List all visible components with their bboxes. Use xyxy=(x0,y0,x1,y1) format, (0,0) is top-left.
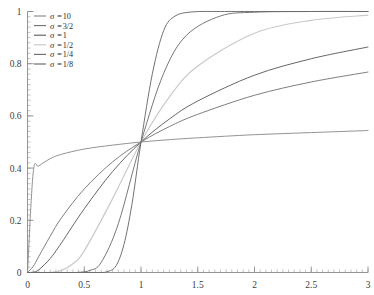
legend-label-1: σ =1 xyxy=(50,30,67,40)
x-tick-label: 2 xyxy=(252,280,257,290)
data-curves xyxy=(28,11,369,272)
minor-tick-marks xyxy=(28,12,369,273)
y-tick-label: 1 xyxy=(17,7,22,17)
curve-sigma-1-2 xyxy=(28,15,369,272)
curve-sigma-10 xyxy=(28,131,369,273)
x-tick-label: 1.5 xyxy=(192,280,204,290)
legend-label-1-2: σ =1/2 xyxy=(50,40,73,50)
chart-legend: σ =10σ =3/2σ =1σ =1/2σ =1/4σ =1/8 xyxy=(34,11,73,69)
x-tick-label: 1 xyxy=(139,280,144,290)
curve-sigma-3-2 xyxy=(28,72,369,272)
legend-label-1-4: σ =1/4 xyxy=(50,49,73,59)
legend-label-1-8: σ =1/8 xyxy=(50,59,73,69)
x-tick-label: 0.5 xyxy=(78,280,90,290)
y-tick-label: 0.4 xyxy=(10,164,22,174)
legend-label-3-2: σ =3/2 xyxy=(50,21,73,31)
y-tick-label: 0 xyxy=(17,268,22,278)
x-tick-label: 0 xyxy=(25,280,30,290)
y-tick-label: 0.2 xyxy=(10,216,22,226)
axis-lines xyxy=(28,12,369,273)
curve-sigma-1-8 xyxy=(28,11,369,272)
x-tick-label: 3 xyxy=(366,280,371,290)
legend-label-10: σ =10 xyxy=(50,11,71,21)
line-chart: 00.511.522.5300.20.40.60.81 σ =10σ =3/2σ… xyxy=(0,0,374,295)
curve-sigma-1-4 xyxy=(28,11,369,272)
major-tick-marks xyxy=(28,12,369,273)
y-tick-label: 0.8 xyxy=(10,59,22,69)
chart-figure: 00.511.522.5300.20.40.60.81 σ =10σ =3/2σ… xyxy=(0,0,374,295)
y-tick-label: 0.6 xyxy=(10,111,22,121)
x-tick-label: 2.5 xyxy=(305,280,317,290)
